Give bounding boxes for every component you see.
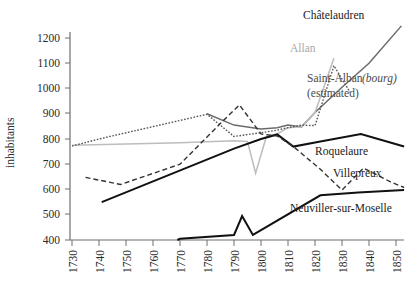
x-tick-1830: 1830 <box>337 250 349 273</box>
y-tick-1100: 1100 <box>37 57 60 69</box>
series-label-saint-alban-estimated: (estimated) <box>307 87 359 100</box>
x-tick-1780: 1780 <box>202 250 214 273</box>
chart-container: inhabitants 1200 1100 1000 900 800 700 6… <box>0 0 413 286</box>
x-tick-1760: 1760 <box>148 250 160 273</box>
x-tick-1790: 1790 <box>229 250 241 273</box>
series-label-chatelaudren: Châtelaudren <box>303 9 365 21</box>
x-tick-1730: 1730 <box>67 250 79 273</box>
x-tick-1770: 1770 <box>175 250 187 273</box>
series-label-neuviller: Neuviller-sur-Moselle <box>290 202 392 214</box>
line-chart: inhabitants 1200 1100 1000 900 800 700 6… <box>0 0 413 286</box>
series-label-villepreux: Villepreux <box>333 167 382 180</box>
y-axis-title: inhabitants <box>4 117 16 168</box>
x-tick-1740: 1740 <box>94 250 106 273</box>
x-tick-1850: 1850 <box>391 250 403 273</box>
y-tick-900: 900 <box>43 107 61 119</box>
x-tick-1840: 1840 <box>364 250 376 273</box>
series-label-saint-alban-bourg: (bourg) <box>362 72 397 85</box>
y-tick-500: 500 <box>43 208 61 220</box>
series-label-saint-alban: Saint-Alban <box>307 72 363 84</box>
y-tick-700: 700 <box>43 158 61 170</box>
x-tick-1750: 1750 <box>121 250 133 273</box>
y-tick-600: 600 <box>43 183 61 195</box>
y-tick-400: 400 <box>43 234 61 246</box>
series-label-allan: Allan <box>290 42 316 54</box>
y-tick-800: 800 <box>43 133 61 145</box>
y-tick-1200: 1200 <box>37 32 60 44</box>
x-tick-1820: 1820 <box>310 250 322 273</box>
x-tick-1800: 1800 <box>256 250 268 273</box>
x-tick-1810: 1810 <box>283 250 295 273</box>
y-tick-1000: 1000 <box>37 82 60 94</box>
series-label-roquelaure: Roquelaure <box>315 145 368 158</box>
